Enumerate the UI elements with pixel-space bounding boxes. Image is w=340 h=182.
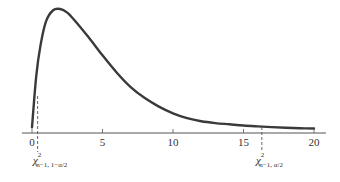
label-subscript: n−1, 1−α/2 [36,161,67,169]
upper-critical-label: χ2n−1, α/2 [256,154,288,169]
density-curve [32,9,314,129]
x-tick-label: 15 [238,137,249,148]
x-tick-label: 20 [309,137,320,148]
x-tick-label: 10 [168,137,179,148]
x-ticks [32,129,314,133]
lower-critical-label: χ2n−1, 1−α/2 [33,154,72,169]
label-superscript: 2 [38,151,42,159]
label-subscript: n−1, α/2 [259,161,283,169]
x-tick-label: 5 [100,137,106,148]
x-tick-label: 0 [29,137,35,148]
label-superscript: 2 [261,151,265,159]
